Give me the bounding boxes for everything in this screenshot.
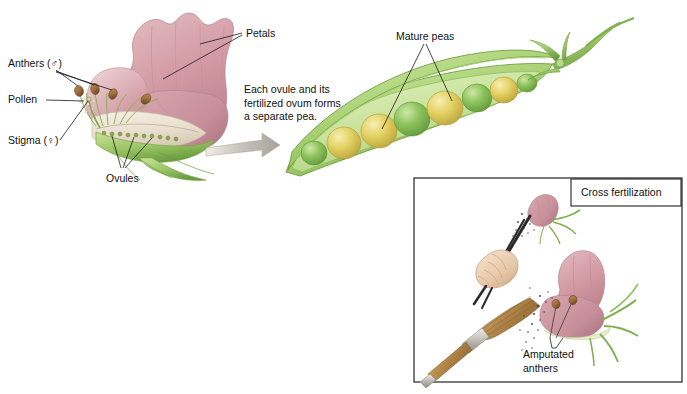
pea-7 — [490, 77, 518, 103]
amputated-anthers-line-1: Amputated — [523, 348, 613, 362]
inset-title: Cross fertilization — [581, 186, 662, 199]
label-petals: Petals — [246, 27, 275, 40]
pod-sepal-3 — [562, 32, 570, 60]
label-amputated-anthers: Amputated anthers — [523, 348, 613, 375]
label-mature-peas: Mature peas — [396, 30, 454, 43]
label-pollen: Pollen — [8, 93, 37, 106]
caption-line-2: fertilized ovum forms — [244, 97, 368, 111]
pea-2 — [327, 127, 361, 159]
label-stigma: Stigma (♀) — [8, 134, 58, 147]
pea-4 — [394, 102, 430, 136]
label-ovules: Ovules — [106, 172, 139, 185]
caption-ovule-to-pea: Each ovule and its fertilized ovum forms… — [244, 83, 368, 124]
label-anthers: Anthers (♂) — [8, 57, 62, 70]
pea-6 — [462, 84, 492, 112]
pea-1 — [301, 141, 327, 165]
figure-canvas: Petals Anthers (♂) Pollen Stigma (♀) Ovu… — [0, 0, 687, 394]
pea-5 — [427, 91, 463, 125]
caption-line-3: a separate pea. — [244, 110, 368, 124]
caption-line-1: Each ovule and its — [244, 83, 368, 97]
amputated-anthers-line-2: anthers — [523, 362, 613, 376]
